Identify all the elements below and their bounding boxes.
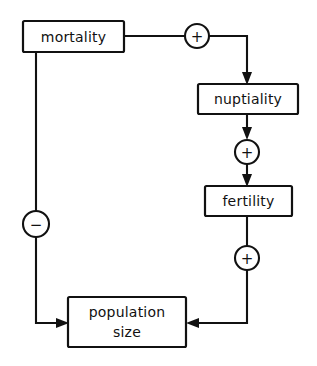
diagram-canvas: mortality nuptiality fertility populatio…	[0, 0, 317, 366]
operator-label-plus-fertility-population: +	[241, 250, 254, 268]
node-label-population-size-line1: population	[89, 304, 166, 320]
arrowhead-into-population-right	[186, 318, 199, 328]
operator-label-plus-mortality-nuptiality: +	[191, 28, 204, 46]
edge-minus-to-population	[36, 237, 59, 323]
node-label-population-size-line2: size	[113, 324, 141, 340]
node-label-fertility: fertility	[222, 193, 274, 209]
edge-plus1-to-nuptiality	[209, 36, 247, 76]
operator-label-minus-mortality-population: −	[30, 216, 43, 234]
operator-label-plus-nuptiality-fertility: +	[241, 144, 254, 162]
node-label-nuptiality: nuptiality	[214, 91, 282, 107]
arrowhead-into-plus2	[242, 127, 252, 140]
edge-plus3-to-population	[196, 270, 247, 323]
causal-diagram: mortality nuptiality fertility populatio…	[0, 0, 317, 366]
node-label-mortality: mortality	[41, 29, 106, 45]
